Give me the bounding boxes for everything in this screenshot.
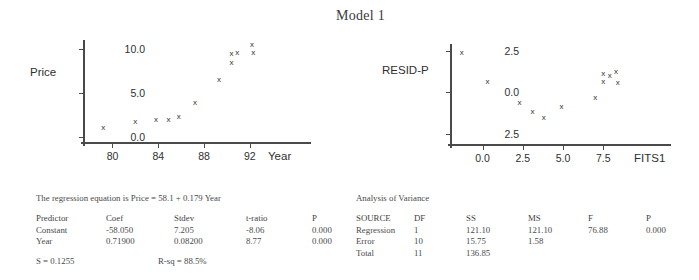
y-axis-tick-label: 2.5	[457, 45, 519, 57]
cell-p: 0.000	[646, 225, 666, 237]
data-point: x	[230, 50, 234, 58]
standard-error-value: S = 0.1255	[36, 256, 74, 266]
data-point: x	[460, 49, 464, 57]
column-header-tratio: t-ratio	[246, 213, 312, 225]
cell-source: Total	[356, 248, 414, 260]
x-axis-tick	[523, 146, 524, 150]
cell-ss: 121.10	[466, 225, 528, 237]
cell-df: 11	[414, 248, 466, 260]
x-axis-tick-label: 0.0	[475, 152, 490, 164]
anova-caption: Analysis of Variance	[356, 193, 429, 203]
data-point: x	[230, 59, 234, 67]
cell-stdev: 0.08200	[174, 236, 246, 248]
y-axis-tick-label: 2.5	[457, 128, 519, 140]
x-axis-tick-label: 7.5	[596, 152, 611, 164]
column-header-p: P	[312, 213, 332, 225]
cell-ss: 136.85	[466, 248, 528, 260]
y-axis-tick	[446, 134, 450, 135]
data-point: x	[251, 49, 255, 57]
data-point: x	[542, 114, 546, 122]
x-axis-line	[448, 144, 671, 146]
x-axis-title: Year	[268, 150, 291, 162]
table-row: Constant -58.050 7.205 -8.06 0.000	[36, 225, 332, 237]
y-axis-tick-label: 0.0	[457, 86, 519, 98]
data-point: x	[616, 79, 620, 87]
coefficients-table: Predictor Coef Stdev t-ratio P Constant …	[36, 213, 332, 248]
data-point: x	[530, 108, 534, 116]
x-axis-tick	[250, 144, 251, 148]
table-row: Year 0.71900 0.08200 8.77 0.000	[36, 236, 332, 248]
x-axis-tick	[204, 144, 205, 148]
data-point: x	[154, 116, 158, 124]
x-axis-tick	[158, 144, 159, 148]
data-point: x	[167, 116, 171, 124]
x-axis-tick-label: 88	[198, 150, 210, 162]
cell-f: 76.88	[588, 225, 646, 237]
x-axis-tick-label: 92	[244, 150, 256, 162]
column-header-stdev: Stdev	[174, 213, 246, 225]
cell-p: 0.000	[312, 236, 332, 248]
table-row: Regression 1 121.10 121.10 76.88 0.000	[356, 225, 666, 237]
x-axis-tick	[603, 146, 604, 150]
cell-predictor: Year	[36, 236, 106, 248]
column-header-df: DF	[414, 213, 466, 225]
column-header-source: SOURCE	[356, 213, 414, 225]
cell-ms: 1.58	[528, 236, 588, 248]
anova-table: SOURCE DF SS MS F P Regression 1 121.10 …	[356, 213, 666, 259]
cell-predictor: Constant	[36, 225, 106, 237]
table-header-row: SOURCE DF SS MS F P	[356, 213, 666, 225]
data-point: x	[518, 99, 522, 107]
cell-df: 1	[414, 225, 466, 237]
x-axis-tick	[483, 146, 484, 150]
scatter-plot-resid-vs-fits: 0.02.55.07.52.50.02.5RESID-PFITS1xxxxxxx…	[380, 26, 680, 156]
x-axis-tick-label: 2.5	[515, 152, 530, 164]
column-header-ms: MS	[528, 213, 588, 225]
page-title: Model 1	[336, 8, 385, 24]
table-row: Error 10 15.75 1.58	[356, 236, 666, 248]
y-axis-title: RESID-P	[382, 64, 429, 76]
data-point: x	[217, 76, 221, 84]
column-header-p: P	[646, 213, 666, 225]
data-point: x	[601, 78, 605, 86]
cell-ss: 15.75	[466, 236, 528, 248]
cell-p: 0.000	[312, 225, 332, 237]
cell-stdev: 7.205	[174, 225, 246, 237]
column-header-coef: Coef	[106, 213, 174, 225]
x-axis-tick	[112, 144, 113, 148]
data-point: x	[614, 68, 618, 76]
cell-p	[646, 236, 666, 248]
data-point: x	[485, 78, 489, 86]
table-header-row: Predictor Coef Stdev t-ratio P	[36, 213, 332, 225]
cell-coef: 0.71900	[106, 236, 174, 248]
column-header-predictor: Predictor	[36, 213, 106, 225]
r-squared-value: R-sq = 88.5%	[158, 256, 207, 266]
cell-f	[588, 236, 646, 248]
data-point: x	[101, 124, 105, 132]
cell-source: Error	[356, 236, 414, 248]
y-axis-title: Price	[30, 66, 56, 78]
table-row: Total 11 136.85	[356, 248, 666, 260]
cell-ms: 121.10	[528, 225, 588, 237]
cell-ms	[528, 248, 588, 260]
cell-df: 10	[414, 236, 466, 248]
y-axis-tick-label: 5.0	[70, 87, 145, 99]
y-axis-tick	[446, 51, 450, 52]
data-point: x	[133, 118, 137, 126]
cell-tratio: -8.06	[246, 225, 312, 237]
data-point: x	[177, 113, 181, 121]
x-axis-tick-label: 80	[107, 150, 119, 162]
data-point: x	[593, 94, 597, 102]
data-point: x	[608, 72, 612, 80]
regression-equation: The regression equation is Price = 58.1 …	[36, 193, 221, 203]
cell-tratio: 8.77	[246, 236, 312, 248]
y-axis-tick-label: 0.0	[70, 131, 145, 143]
x-axis-tick	[563, 146, 564, 150]
y-axis-tick	[446, 92, 450, 93]
data-point: x	[193, 99, 197, 107]
column-header-ss: SS	[466, 213, 528, 225]
cell-f	[588, 248, 646, 260]
cell-source: Regression	[356, 225, 414, 237]
cell-p	[646, 248, 666, 260]
data-point: x	[235, 49, 239, 57]
scatter-plot-price-vs-year: 808488920.05.010.0PriceYearxxxxxxxxxxxx	[0, 26, 300, 156]
